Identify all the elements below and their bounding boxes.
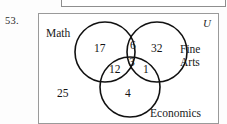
region-value-outside-all: 25 bbox=[57, 88, 69, 100]
region-value-math-and-economics: 12 bbox=[109, 64, 121, 76]
figure-page: 53. U Math Fine Arts Economics 17 6 32 1… bbox=[0, 0, 227, 124]
region-value-economics-only: 4 bbox=[125, 88, 131, 100]
region-value-math-and-fine-arts: 6 bbox=[130, 40, 136, 52]
set-label-economics: Economics bbox=[150, 108, 201, 120]
set-label-fine-arts: Fine Arts bbox=[180, 43, 200, 69]
region-value-math-only: 17 bbox=[94, 43, 106, 55]
set-label-math: Math bbox=[46, 28, 70, 40]
set-label-fine-arts-line1: Fine bbox=[180, 43, 200, 56]
set-label-fine-arts-line2: Arts bbox=[180, 56, 200, 69]
region-value-all-three: 3 bbox=[129, 57, 135, 69]
region-value-fine-arts-only: 32 bbox=[151, 43, 163, 55]
region-value-fine-arts-and-economics: 1 bbox=[143, 64, 149, 76]
